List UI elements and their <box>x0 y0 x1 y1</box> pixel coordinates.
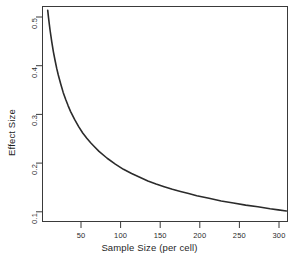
xtick-label-100: 100 <box>107 231 135 240</box>
tick-marks <box>36 17 279 228</box>
ytick-label-0.5: 0.5 <box>30 17 39 31</box>
xtick-label-150: 150 <box>146 231 174 240</box>
xtick-label-300: 300 <box>265 231 293 240</box>
ytick-label-0.2: 0.2 <box>30 163 39 177</box>
y-axis-title-text: Effect Size <box>6 109 17 156</box>
chart-figure: 0.5 0.4 0.3 0.2 0.1 50 100 150 200 250 3… <box>0 0 299 264</box>
x-axis-title: Sample Size (per cell) <box>0 242 299 253</box>
effect-size-curve <box>48 10 287 211</box>
plot-canvas <box>0 0 299 264</box>
xtick-label-50: 50 <box>67 231 95 240</box>
xtick-label-200: 200 <box>186 231 214 240</box>
ytick-label-0.3: 0.3 <box>30 114 39 128</box>
y-axis-title: Effect Size <box>4 0 18 264</box>
ytick-label-0.1: 0.1 <box>30 211 39 225</box>
xtick-label-250: 250 <box>225 231 253 240</box>
ytick-label-0.4: 0.4 <box>30 65 39 79</box>
